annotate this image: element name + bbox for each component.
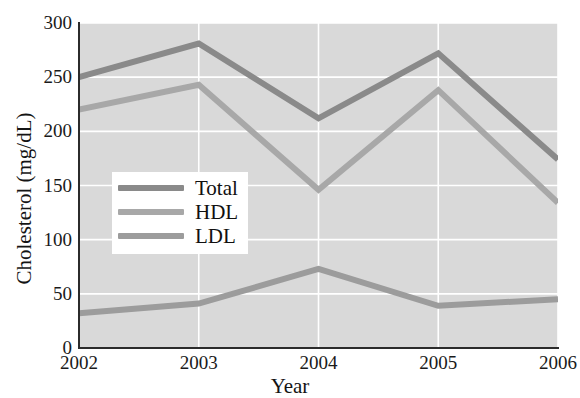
x-tick-label: 2005 [419, 352, 457, 374]
y-axis-title: Cholesterol (mg/dL) [12, 79, 37, 319]
chart-figure: 050100150200250300 20022003200420052006 … [0, 0, 580, 398]
y-axis-line [78, 22, 80, 349]
x-axis-line [78, 347, 559, 349]
y-tick-label: 300 [0, 12, 72, 34]
legend-label-hdl: HDL [195, 202, 238, 223]
legend-label-ldl: LDL [195, 226, 236, 247]
x-tick-label: 2003 [180, 352, 218, 374]
x-axis-title: Year [0, 374, 580, 398]
legend-swatch-total [118, 185, 184, 191]
legend-item-ldl: LDL [118, 224, 238, 248]
x-tick-label: 2006 [539, 352, 577, 374]
legend-item-hdl: HDL [118, 200, 238, 224]
legend-swatch-ldl [118, 233, 184, 239]
x-tick-label: 2004 [300, 352, 338, 374]
legend-item-total: Total [118, 176, 238, 200]
chart-legend: TotalHDLLDL [112, 172, 248, 254]
x-tick-label: 2002 [60, 352, 98, 374]
legend-label-total: Total [195, 178, 238, 199]
legend-swatch-hdl [118, 209, 184, 215]
